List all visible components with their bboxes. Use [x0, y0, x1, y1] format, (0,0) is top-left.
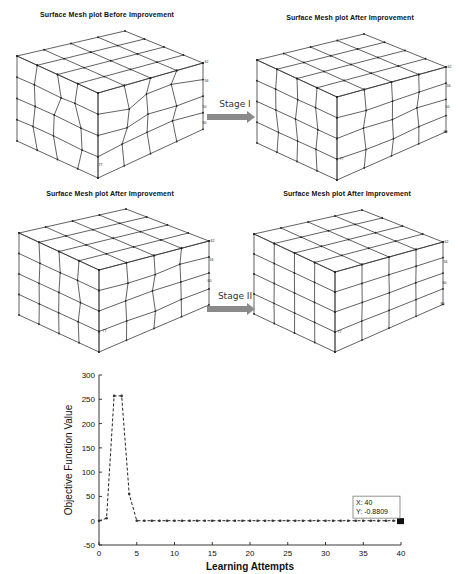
data-tip-marker[interactable] [397, 518, 404, 524]
y-tick-label: 0 [91, 517, 96, 526]
data-point[interactable] [219, 519, 222, 522]
x-tick-label: 0 [97, 549, 102, 558]
x-tick-label: 25 [283, 549, 292, 558]
data-point[interactable] [234, 519, 237, 522]
data-point[interactable] [151, 519, 154, 522]
chart-axes: -500501001502002503000510152025303540Obj… [63, 371, 406, 572]
x-tick-label: 35 [359, 549, 368, 558]
y-tick-label: 200 [82, 420, 96, 429]
data-point[interactable] [317, 519, 320, 522]
data-point[interactable] [166, 519, 169, 522]
data-point[interactable] [143, 519, 146, 522]
data-point[interactable] [354, 519, 357, 522]
data-tip-x: X: 40 [356, 499, 372, 506]
data-point[interactable] [188, 519, 191, 522]
data-point[interactable] [347, 519, 350, 522]
data-point[interactable] [226, 519, 229, 522]
data-point[interactable] [120, 395, 123, 398]
data-point[interactable] [128, 493, 131, 496]
y-tick-label: 100 [82, 468, 96, 477]
data-point[interactable] [211, 519, 214, 522]
data-point[interactable] [105, 517, 108, 520]
y-tick-label: 150 [82, 444, 96, 453]
data-point[interactable] [256, 519, 259, 522]
data-point[interactable] [135, 519, 138, 522]
data-tip-y: Y: -0.8809 [356, 508, 388, 515]
data-point[interactable] [392, 519, 395, 522]
data-point[interactable] [339, 519, 342, 522]
data-point[interactable] [362, 519, 365, 522]
x-tick-label: 5 [135, 549, 140, 558]
data-point[interactable] [302, 519, 305, 522]
data-point[interactable] [385, 519, 388, 522]
y-tick-label: 50 [86, 492, 95, 501]
data-point[interactable] [286, 519, 289, 522]
data-point[interactable] [279, 519, 282, 522]
data-point[interactable] [173, 519, 176, 522]
objective-function-chart: -500501001502002503000510152025303540Obj… [0, 0, 459, 574]
x-tick-label: 10 [170, 549, 179, 558]
data-point[interactable] [203, 519, 206, 522]
data-point[interactable] [98, 519, 101, 522]
data-point[interactable] [181, 519, 184, 522]
x-tick-label: 40 [397, 549, 406, 558]
data-point[interactable] [332, 519, 335, 522]
x-tick-label: 15 [208, 549, 217, 558]
data-point[interactable] [309, 519, 312, 522]
data-point[interactable] [324, 519, 327, 522]
data-point[interactable] [264, 519, 267, 522]
y-tick-label: -50 [83, 541, 95, 550]
data-point[interactable] [271, 519, 274, 522]
data-point[interactable] [241, 519, 244, 522]
data-point[interactable] [249, 519, 252, 522]
data-point[interactable] [370, 519, 373, 522]
x-tick-label: 30 [321, 549, 330, 558]
data-point[interactable] [294, 519, 297, 522]
data-point[interactable] [158, 519, 161, 522]
x-tick-label: 20 [246, 549, 255, 558]
data-point[interactable] [113, 395, 116, 398]
y-tick-label: 300 [82, 371, 96, 380]
y-tick-label: 250 [82, 395, 96, 404]
y-axis-title: Objective Function Value [63, 404, 74, 515]
x-axis-title: Learning Attempts [206, 561, 294, 572]
data-point[interactable] [377, 519, 380, 522]
data-point[interactable] [196, 519, 199, 522]
